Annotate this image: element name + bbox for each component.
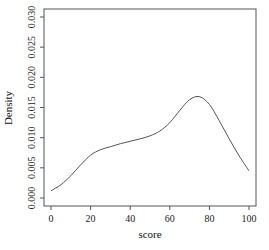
plot-frame [44, 9, 256, 206]
y-axis: 0.0000.0050.0100.0150.0200.0250.030 [26, 6, 44, 210]
density-curve [51, 96, 249, 190]
x-axis: 020406080100 [49, 206, 257, 224]
x-tick-label: 20 [86, 213, 96, 224]
y-tick-label: 0.030 [26, 6, 37, 29]
density-plot: 0.0000.0050.0100.0150.0200.0250.030 0204… [0, 0, 269, 250]
x-axis-title: score [138, 228, 161, 240]
x-tick-label: 80 [204, 213, 214, 224]
x-tick-label: 40 [125, 213, 135, 224]
y-tick-label: 0.015 [26, 96, 37, 119]
y-tick-label: 0.020 [26, 66, 37, 89]
x-tick-label: 0 [49, 213, 54, 224]
y-tick-label: 0.005 [26, 157, 37, 180]
y-tick-label: 0.000 [26, 187, 37, 210]
y-tick-label: 0.025 [26, 36, 37, 59]
y-tick-label: 0.010 [26, 126, 37, 149]
x-tick-label: 60 [165, 213, 175, 224]
y-axis-title: Density [2, 90, 14, 125]
x-tick-label: 100 [242, 213, 257, 224]
